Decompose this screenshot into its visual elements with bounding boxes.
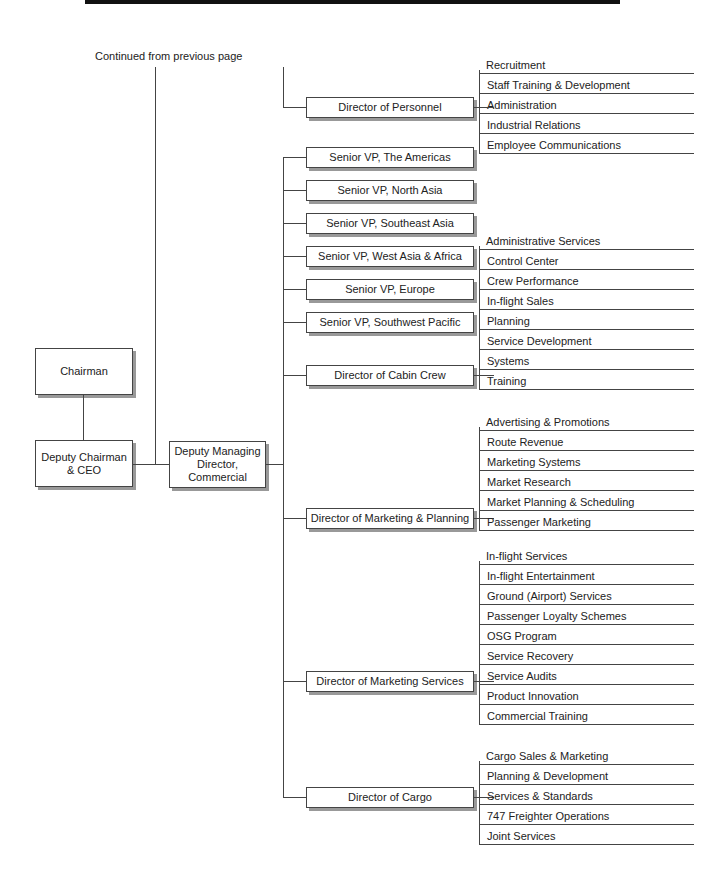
connector [133,464,169,465]
dept-item: Training [479,366,694,390]
continued-note: Continued from previous page [95,50,242,62]
trunk-line [283,157,284,797]
deputy-chairman-box: Deputy Chairman & CEO [35,440,133,487]
connector [266,464,283,465]
unit-box-cabin-crew: Director of Cabin Crew [306,365,474,386]
deputy-chairman-label: Deputy Chairman [41,451,127,464]
unit-title: Director of Personnel [338,101,441,114]
dept-item: Employee Communications [479,130,694,154]
deputy-chairman-label-2: & CEO [67,464,101,477]
page-top-rule [85,0,620,4]
unit-title: Senior VP, West Asia & Africa [318,250,462,263]
unit-title: Director of Marketing Services [316,675,463,688]
unit-title: Senior VP, Southwest Pacific [319,316,460,329]
unit-title: Director of Marketing & Planning [311,512,469,525]
deputy-md-label-2: Director, Commercial [170,458,265,484]
chairman-label: Chairman [60,365,108,378]
unit-box-cargo: Director of Cargo [306,787,474,808]
dept-list-personnel: Recruitment Staff Training & Development… [479,62,704,146]
connector [474,107,494,108]
dept-list-marketing-planning: Advertising & Promotions Route Revenue M… [479,419,704,539]
unit-box-marketing-services: Director of Marketing Services [306,671,474,692]
chairman-box: Chairman [35,348,133,395]
unit-box-svp-west-asia-africa: Senior VP, West Asia & Africa [306,246,474,267]
unit-box-svp-americas: Senior VP, The Americas [306,147,474,168]
unit-box-svp-southwest-pacific: Senior VP, Southwest Pacific [306,312,474,333]
unit-title: Senior VP, Southeast Asia [326,217,454,230]
continuation-line-2 [283,67,284,107]
continuation-line [155,67,156,464]
unit-box-svp-europe: Senior VP, Europe [306,279,474,300]
unit-title: Director of Cargo [348,791,432,804]
unit-box-marketing-planning: Director of Marketing & Planning [306,508,474,529]
unit-box-personnel: Director of Personnel [306,97,474,118]
dept-list-marketing-services: In-flight Services In-flight Entertainme… [479,553,704,733]
unit-title: Director of Cabin Crew [334,369,445,382]
dept-item: Passenger Marketing [479,507,694,531]
unit-title: Senior VP, North Asia [338,184,443,197]
unit-box-svp-southeast-asia: Senior VP, Southeast Asia [306,213,474,234]
dept-list-cargo: Cargo Sales & Marketing Planning & Devel… [479,753,704,863]
deputy-md-box: Deputy Managing Director, Commercial [169,441,266,488]
dept-item: Commercial Training [479,701,694,725]
unit-title: Senior VP, The Americas [329,151,450,164]
deputy-md-label: Deputy Managing [174,445,260,458]
dept-list-cabin-crew: Administrative Services Control Center C… [479,238,704,408]
dept-item: Joint Services [479,821,694,845]
connector [83,395,84,440]
connector [283,107,306,108]
unit-box-svp-north-asia: Senior VP, North Asia [306,180,474,201]
unit-title: Senior VP, Europe [345,283,435,296]
